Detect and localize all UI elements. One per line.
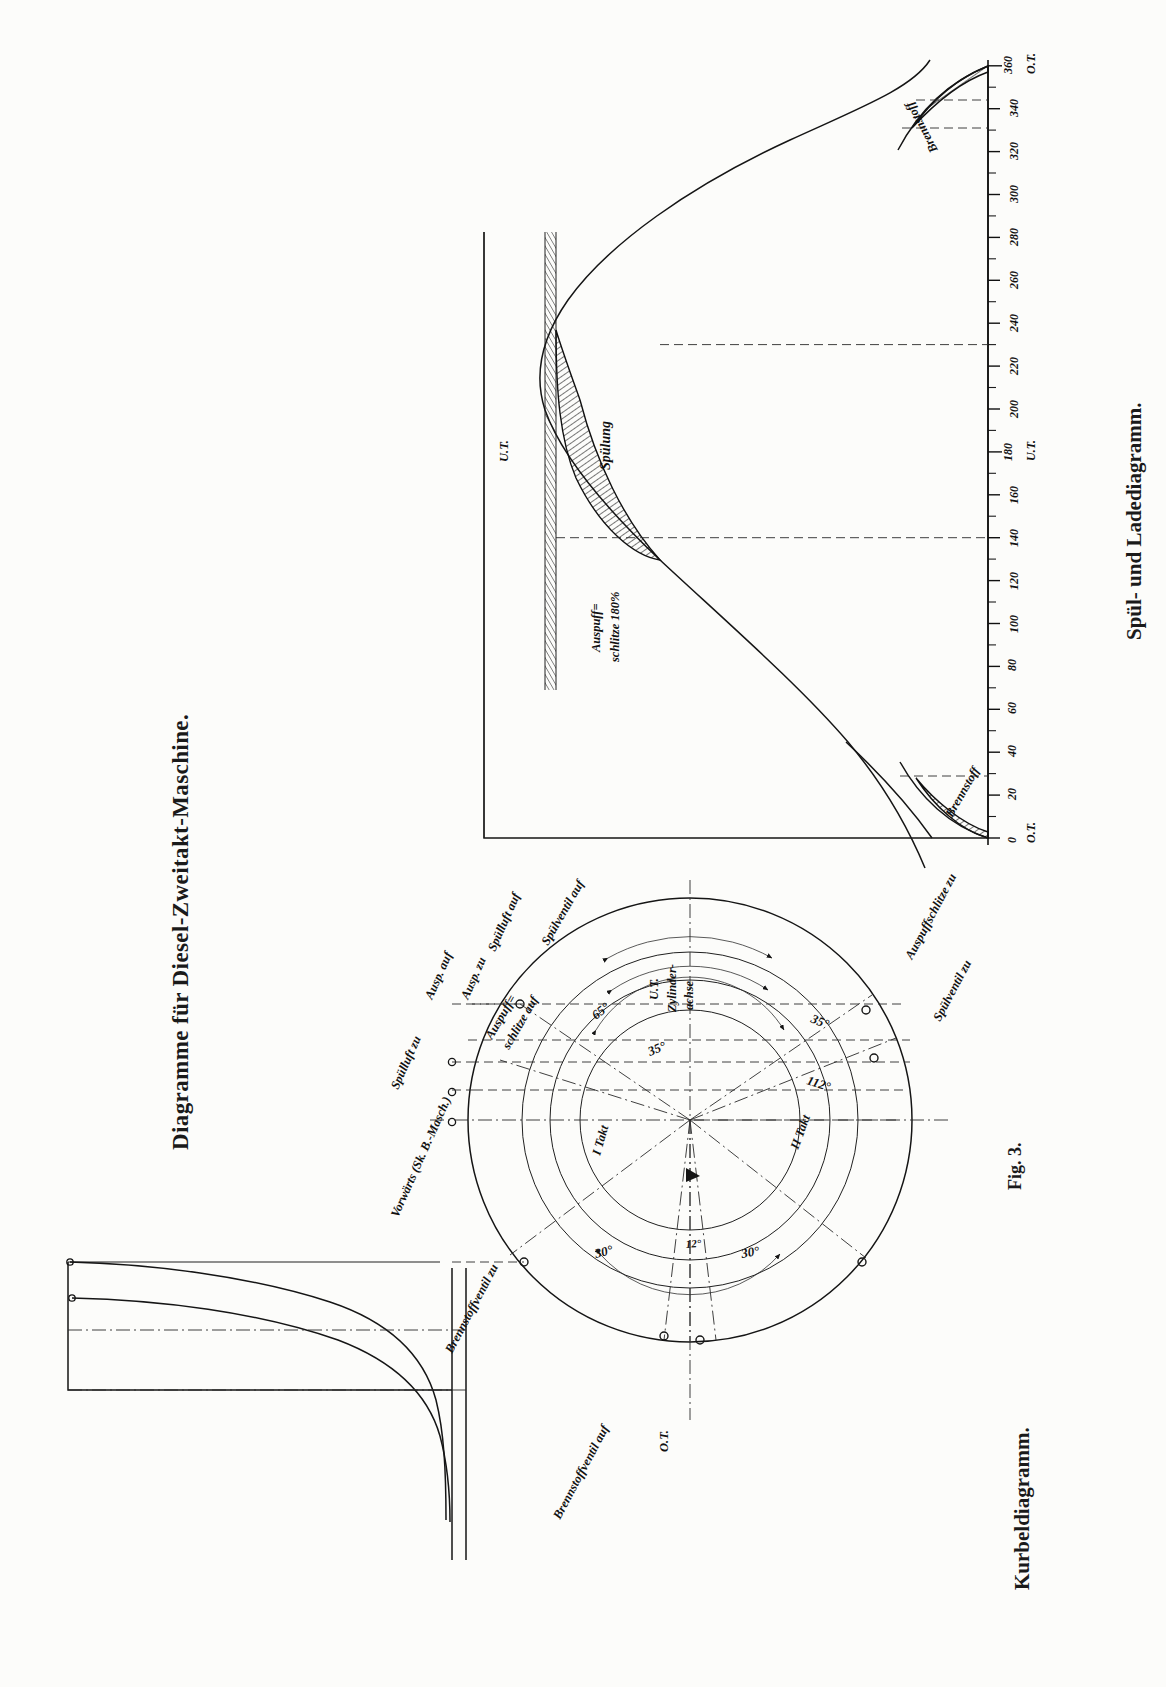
event-markers xyxy=(448,1058,455,1125)
figure-crank-diagram: Ausp. auf Ausp. zu Spülluft auf Spülluft… xyxy=(67,871,974,1560)
label-ausp-zu: Ausp. zu xyxy=(458,955,489,1002)
crank-event-points xyxy=(516,1000,878,1344)
tick-label-280: 280 xyxy=(1007,228,1021,247)
tick-annotation-ut: U.T. xyxy=(1024,440,1038,461)
pv-indicator-diagram xyxy=(67,1259,470,1560)
tick-label-300: 300 xyxy=(1007,185,1021,204)
label-fuel-start: Brennstoff xyxy=(942,763,983,820)
tick-annotation-ot-end: O.T. xyxy=(1024,53,1038,74)
label-takt-1: I Takt xyxy=(589,1123,611,1158)
label-takt-2: II Takt xyxy=(787,1113,813,1152)
label-spuelventil-zu: Spülventil zu xyxy=(930,958,974,1024)
expansion-curve-inner xyxy=(72,1298,450,1522)
tick-label-140: 140 xyxy=(1007,529,1021,547)
tick-label-320: 320 xyxy=(1007,142,1021,161)
label-exhaust-slots-line2: schlitze 180% xyxy=(608,592,622,663)
figure-scavenge-load-diagram: 0 20 40 60 80 100 120 140 160 180 200 22… xyxy=(484,53,1038,868)
tick-label-120: 120 xyxy=(1007,572,1021,590)
angle-label-30a: 30° xyxy=(592,1242,615,1261)
label-vorwaerts: Vorwärts (Sk. B.-Masch.) xyxy=(388,1095,454,1220)
crank-chords xyxy=(468,1004,910,1090)
tick-label-360: 360 xyxy=(1001,56,1015,75)
tick-label-100: 100 xyxy=(1007,615,1021,633)
label-bdc-top: U.T. xyxy=(497,440,511,462)
angle-label-35a: 35° xyxy=(645,1038,669,1059)
label-zylinder: Zylinder- xyxy=(665,964,679,1013)
label-scavenging: Spülung xyxy=(598,421,613,470)
tick-label-80: 80 xyxy=(1005,659,1019,671)
angle-label-30b: 30° xyxy=(739,1243,761,1261)
tick-label-60: 60 xyxy=(1005,702,1019,714)
diagram-frame xyxy=(484,65,988,838)
tick-label-40: 40 xyxy=(1005,745,1019,758)
tick-label-260: 260 xyxy=(1007,271,1021,290)
tick-label-340: 340 xyxy=(1007,99,1021,118)
angle-label-35b: 35° xyxy=(808,1010,832,1031)
label-ausp-auf: Ausp. auf xyxy=(422,948,456,1002)
tick-label-160: 160 xyxy=(1007,486,1021,504)
label-auspuffschlitze-zu: Auspuffschlitze zu xyxy=(902,871,959,962)
degree-axis-tick-labels: 0 20 40 60 80 100 120 140 160 180 200 22… xyxy=(1001,53,1038,843)
angle-label-12: 12° xyxy=(685,1237,702,1250)
label-ot: O.T. xyxy=(657,1430,671,1452)
tick-annotation-ot-start: O.T. xyxy=(1024,822,1038,843)
label-spuelventil-auf: Spülventil auf xyxy=(538,876,587,947)
drawing-layer: 0 20 40 60 80 100 120 140 160 180 200 22… xyxy=(0,0,1166,1687)
tick-label-20: 20 xyxy=(1005,788,1019,801)
tick-label-240: 240 xyxy=(1007,314,1021,333)
tick-label-0: 0 xyxy=(1005,837,1019,843)
crank-circle-group xyxy=(430,880,952,1420)
page-root: Diagramme für Diesel-Zweitakt-Maschine. … xyxy=(0,0,1166,1687)
label-exhaust-slots-line1: Auspuff= xyxy=(589,603,603,653)
label-achse: achse xyxy=(682,980,696,1010)
tick-label-200: 200 xyxy=(1007,400,1021,419)
label-brennstoffventil-auf: Brennstoffventil auf xyxy=(550,1421,613,1522)
label-spuelluft-zu: Spülluft zu xyxy=(388,1034,424,1091)
degree-axis-ticks xyxy=(988,66,1002,838)
label-ut: U.T. xyxy=(647,978,661,1000)
label-spuelluft-auf: Spülluft auf xyxy=(485,889,524,953)
tick-label-180: 180 xyxy=(1001,443,1015,461)
crank-radials xyxy=(500,995,898,1342)
rotation-pointer xyxy=(686,1168,700,1182)
label-brennstoffventil-zu: Brennstoffventil zu xyxy=(442,1262,501,1357)
tick-label-220: 220 xyxy=(1007,357,1021,376)
label-fuel-end: Brennstoff xyxy=(901,98,941,156)
projection-lines xyxy=(556,100,988,776)
angle-label-65: 65° xyxy=(589,999,613,1023)
angle-label-112: 112° xyxy=(805,1073,833,1095)
exhaust-slot-band xyxy=(484,232,556,838)
